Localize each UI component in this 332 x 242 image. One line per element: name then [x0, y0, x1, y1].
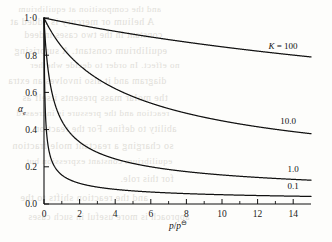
x-axis-title: p/p⊖ — [168, 219, 187, 231]
x-axis-tick-labels: 02468101214 — [42, 209, 299, 219]
y-tick-label: 0.8 — [25, 51, 37, 61]
x-tick-label: 10 — [217, 209, 227, 219]
y-tick-label: 0.2 — [25, 162, 37, 172]
y-tick-label: 0.4 — [25, 125, 37, 135]
y-tick-label: 0.6 — [25, 88, 37, 98]
y-tick-label: 0.0 — [25, 199, 37, 209]
x-tick-label: 14 — [288, 209, 298, 219]
curve-k-10 — [44, 18, 311, 134]
x-tick-label: 8 — [184, 209, 189, 219]
y-tick-label: 1·0 — [24, 13, 37, 23]
curve-label-k100: K = 100 — [267, 41, 298, 51]
x-tick-label: 0 — [42, 209, 47, 219]
curve-label-k1: 1.0 — [287, 164, 299, 174]
curve-k-100 — [44, 18, 311, 57]
curve-label-k10: 10.0 — [280, 116, 296, 126]
x-tick-label: 4 — [113, 209, 118, 219]
x-tick-label: 2 — [77, 209, 82, 219]
x-tick-label: 6 — [148, 209, 153, 219]
figure-container: and the composition at equilibriumA heli… — [0, 0, 332, 242]
y-axis-tick-labels: 1·00.80.60.40.20.0 — [24, 13, 37, 209]
curve-label-k01: 0.1 — [287, 181, 298, 191]
x-tick-label: 12 — [253, 209, 263, 219]
chart-svg: 02468101214 1·00.80.60.40.20.0 αe p/p⊖ K… — [0, 0, 332, 242]
y-axis-title: αe — [18, 104, 26, 116]
